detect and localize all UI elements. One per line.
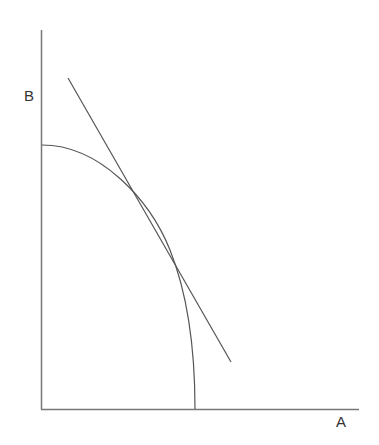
frontier-curve <box>42 145 195 409</box>
y-axis-label: B <box>24 87 34 104</box>
diagram-canvas <box>0 0 379 445</box>
x-axis-label: A <box>336 413 346 430</box>
tangent-line <box>68 78 231 362</box>
